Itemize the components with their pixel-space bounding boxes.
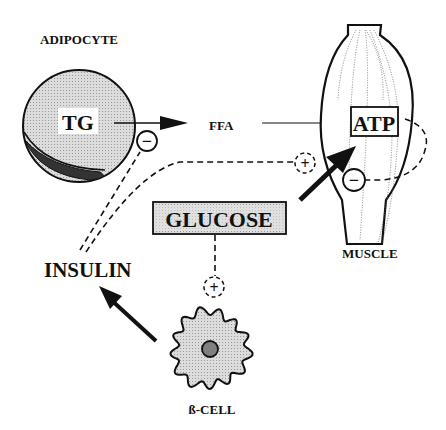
- beta-to-insulin-arrow: [108, 297, 156, 341]
- muscle: ATP: [321, 25, 413, 244]
- adipocyte-cell: TG: [23, 70, 135, 182]
- glucose-label: GLUCOSE: [165, 207, 273, 232]
- beta-cell-label: ß-CELL: [189, 402, 236, 417]
- ffa-label: FFA: [209, 118, 234, 133]
- adipocyte-label: ADIPOCYTE: [40, 32, 118, 47]
- minus-sign-adipocyte-text: −: [142, 131, 152, 151]
- plus-sign-muscle-text: +: [300, 155, 309, 172]
- muscle-label: MUSCLE: [342, 246, 398, 261]
- beta-cell: [171, 307, 253, 389]
- tg-to-ffa-arrowhead: [160, 116, 188, 130]
- atp-label: ATP: [353, 111, 395, 136]
- diagram-canvas: ADIPOCYTE TG FFA ATP MUSCLE −: [0, 0, 446, 430]
- beta-cell-nucleus: [202, 341, 218, 357]
- plus-sign-beta-cell-text: +: [209, 279, 218, 296]
- minus-sign-muscle-text: −: [349, 170, 359, 190]
- tg-label: TG: [62, 110, 94, 135]
- insulin-label: INSULIN: [44, 258, 132, 282]
- randle-cycle-diagram: ADIPOCYTE TG FFA ATP MUSCLE −: [0, 0, 446, 430]
